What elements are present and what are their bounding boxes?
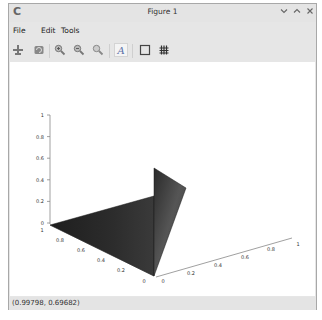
statusbar: (0.99798, 0.69682) bbox=[9, 297, 316, 310]
zoom-original-icon bbox=[92, 44, 104, 56]
toggle-grid-button[interactable] bbox=[157, 43, 171, 57]
pan-icon bbox=[12, 44, 24, 56]
svg-text:0.6: 0.6 bbox=[77, 247, 85, 253]
pointer-coordinates: (0.99798, 0.69682) bbox=[12, 299, 80, 307]
plot-canvas[interactable]: 1 0.8 0.6 0.4 0.2 0 1 0.8 0.6 0.4 0.2 0 bbox=[10, 62, 315, 296]
menu-tools[interactable]: Tools bbox=[61, 26, 79, 35]
toolbar-separator bbox=[109, 44, 110, 58]
svg-text:0.4: 0.4 bbox=[36, 177, 44, 183]
svg-text:0.8: 0.8 bbox=[36, 134, 44, 140]
x-axis: 0 0.2 0.4 0.6 0.8 1 bbox=[156, 238, 300, 284]
3d-surface-plot[interactable]: 1 0.8 0.6 0.4 0.2 0 1 0.8 0.6 0.4 0.2 0 bbox=[10, 62, 315, 296]
svg-text:0.2: 0.2 bbox=[117, 267, 125, 273]
axes-box-icon bbox=[139, 44, 151, 56]
chevron-up-icon bbox=[293, 7, 301, 15]
svg-text:1: 1 bbox=[41, 112, 44, 118]
menu-file[interactable]: File bbox=[13, 26, 26, 35]
toggle-axes-box-button[interactable] bbox=[138, 43, 152, 57]
rotate-icon bbox=[33, 44, 45, 56]
close-button[interactable] bbox=[306, 7, 314, 18]
chevron-down-icon bbox=[280, 7, 288, 15]
horizontal-triangle bbox=[50, 196, 154, 276]
svg-text:0.8: 0.8 bbox=[267, 246, 275, 252]
zoom-out-button[interactable] bbox=[72, 43, 86, 57]
automatic-limits-button[interactable] bbox=[91, 43, 105, 57]
svg-text:0.6: 0.6 bbox=[241, 254, 249, 260]
close-icon bbox=[306, 7, 314, 15]
maximize-button[interactable] bbox=[293, 7, 301, 18]
svg-text:0: 0 bbox=[41, 220, 44, 226]
svg-text:0: 0 bbox=[161, 278, 164, 284]
pan-button[interactable] bbox=[11, 43, 25, 57]
titlebar[interactable]: C Figure 1 bbox=[9, 4, 316, 22]
menu-edit[interactable]: Edit bbox=[41, 26, 56, 35]
menubar: File Edit Tools bbox=[9, 23, 316, 39]
toolbar-separator bbox=[132, 44, 133, 58]
svg-text:0.2: 0.2 bbox=[187, 270, 195, 276]
svg-text:0.4: 0.4 bbox=[214, 262, 222, 268]
minimize-button[interactable] bbox=[280, 7, 288, 18]
toolbar-separator bbox=[49, 44, 50, 58]
vertical-triangle bbox=[154, 168, 186, 276]
svg-text:0.8: 0.8 bbox=[56, 237, 64, 243]
rotate-button[interactable] bbox=[32, 43, 46, 57]
svg-text:0.6: 0.6 bbox=[36, 155, 44, 161]
svg-text:0.2: 0.2 bbox=[36, 198, 44, 204]
window-title: Figure 1 bbox=[9, 7, 316, 16]
zoom-out-icon bbox=[73, 44, 85, 56]
svg-text:0: 0 bbox=[142, 278, 145, 284]
svg-text:1: 1 bbox=[296, 241, 299, 247]
insert-text-button[interactable]: A bbox=[114, 43, 128, 57]
svg-text:0.4: 0.4 bbox=[97, 257, 105, 263]
z-axis: 1 0.8 0.6 0.4 0.2 0 bbox=[36, 112, 50, 226]
zoom-in-button[interactable] bbox=[53, 43, 67, 57]
zoom-in-icon bbox=[54, 44, 66, 56]
grid-icon bbox=[158, 44, 170, 56]
insert-text-icon: A bbox=[117, 45, 124, 56]
toolbar: A bbox=[9, 40, 316, 62]
figure-window: C Figure 1 File Edit Tools bbox=[8, 3, 317, 310]
svg-text:1: 1 bbox=[40, 227, 43, 233]
